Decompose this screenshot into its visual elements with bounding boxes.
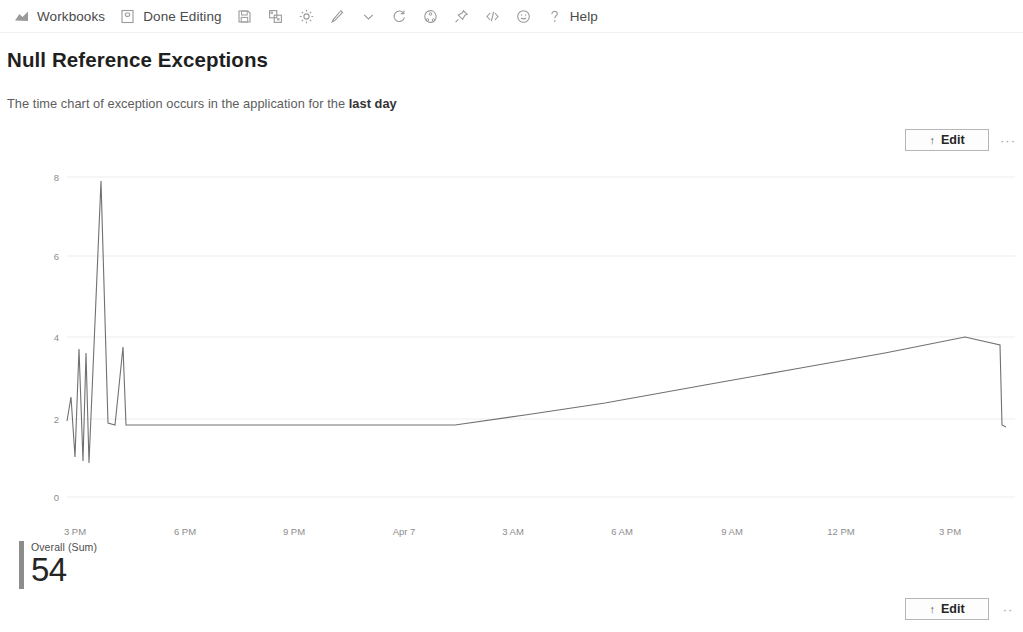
toolbar-item-clone[interactable] <box>260 2 291 30</box>
pencil-edit-icon <box>329 8 346 25</box>
more-options-top[interactable]: ··· <box>999 131 1017 149</box>
toolbar-item-share[interactable] <box>415 2 446 30</box>
subtitle-text: The time chart of exception occurs in th… <box>7 96 349 111</box>
toolbar-item-refresh[interactable] <box>384 2 415 30</box>
x-tick-4: 3 AM <box>502 526 524 537</box>
summary-text-group: Overall (Sum) 54 <box>31 541 97 589</box>
summary-tile: Overall (Sum) 54 <box>19 541 1023 589</box>
edit-button-bottom[interactable]: ↑ Edit <box>905 598 989 620</box>
y-tick-6: 6 <box>54 251 59 262</box>
x-tick-0: 3 PM <box>64 526 86 537</box>
chart-gridlines <box>67 177 1015 497</box>
x-tick-2: 9 PM <box>283 526 305 537</box>
chart-series-line <box>67 181 1006 463</box>
toolbar-label-help: Help <box>570 9 598 24</box>
edit-button-bottom-label: Edit <box>941 602 965 616</box>
share-node-icon <box>422 8 439 25</box>
gear-settings-icon <box>298 8 315 25</box>
toolbar-item-chevron[interactable] <box>353 2 384 30</box>
summary-value: 54 <box>31 552 97 588</box>
y-tick-0: 0 <box>54 492 59 503</box>
toolbar-item-done-editing[interactable]: Done Editing <box>112 2 229 30</box>
x-tick-6: 9 AM <box>721 526 743 537</box>
more-options-bottom[interactable]: ·· <box>999 600 1017 618</box>
chart-svg[interactable]: 8 6 4 2 0 <box>5 157 1018 537</box>
done-editing-icon <box>119 8 136 25</box>
toolbar-item-settings[interactable] <box>291 2 322 30</box>
subtitle-emphasis: last day <box>349 96 397 111</box>
help-question-icon <box>546 8 563 25</box>
toolbar: Workbooks Done Editing <box>0 0 1023 33</box>
page-title: Null Reference Exceptions <box>7 48 1023 72</box>
chart-y-axis: 8 6 4 2 0 <box>54 172 59 503</box>
edit-pen-icon-bottom: ↑ <box>929 604 935 615</box>
toolbar-item-help[interactable]: Help <box>539 2 605 30</box>
toolbar-item-edit-pencil[interactable] <box>322 2 353 30</box>
summary-accent-bar <box>19 541 24 589</box>
chart-x-axis: 3 PM 6 PM 9 PM Apr 7 3 AM 6 AM 9 AM 12 P… <box>5 519 1018 545</box>
x-tick-3: Apr 7 <box>393 526 416 537</box>
toolbar-item-pin[interactable] <box>446 2 477 30</box>
toolbar-label-workbooks: Workbooks <box>37 9 105 24</box>
smiley-feedback-icon <box>515 8 532 25</box>
toolbar-item-code[interactable] <box>477 2 508 30</box>
x-tick-8: 3 PM <box>939 526 961 537</box>
pin-icon <box>453 8 470 25</box>
chart-toolbar-bottom: ↑ Edit ·· <box>5 598 1023 620</box>
time-chart: 8 6 4 2 0 3 PM 6 PM 9 PM Apr 7 3 AM 6 AM… <box>5 157 1018 537</box>
toolbar-item-feedback[interactable] <box>508 2 539 30</box>
toolbar-label-done-editing: Done Editing <box>143 9 222 24</box>
y-tick-8: 8 <box>54 172 59 183</box>
x-tick-1: 6 PM <box>174 526 196 537</box>
save-icon <box>236 8 253 25</box>
code-brackets-icon <box>484 8 501 25</box>
toolbar-item-save[interactable] <box>229 2 260 30</box>
y-tick-2: 2 <box>54 414 59 425</box>
toolbar-item-workbooks[interactable]: Workbooks <box>6 2 112 30</box>
page-content: Null Reference Exceptions The time chart… <box>0 48 1023 620</box>
clone-copy-icon <box>267 8 284 25</box>
x-tick-7: 12 PM <box>827 526 855 537</box>
x-tick-5: 6 AM <box>611 526 633 537</box>
workbooks-chart-icon <box>13 8 30 25</box>
chart-toolbar-top: ↑ Edit ··· <box>5 129 1023 151</box>
chevron-down-icon <box>360 8 377 25</box>
y-tick-4: 4 <box>54 332 59 343</box>
refresh-icon <box>391 8 408 25</box>
edit-button-top-label: Edit <box>941 133 965 147</box>
edit-pen-icon-top: ↑ <box>929 135 935 146</box>
page-subtitle: The time chart of exception occurs in th… <box>7 96 1023 111</box>
edit-button-top[interactable]: ↑ Edit <box>905 129 989 151</box>
